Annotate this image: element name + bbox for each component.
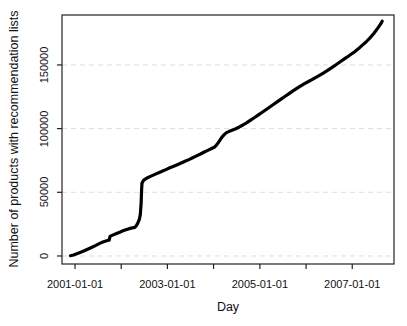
x-tick-label: 2005-01-01 bbox=[232, 278, 288, 290]
data-line-products-with-recommendation-lists bbox=[70, 21, 382, 256]
y-tick-label: 0 bbox=[38, 253, 50, 259]
y-tick-label: 150000 bbox=[38, 47, 50, 84]
x-tick-label: 2003-01-01 bbox=[139, 278, 195, 290]
plot-box bbox=[62, 15, 394, 264]
y-tick-label: 50000 bbox=[38, 177, 50, 208]
x-tick-label: 2001-01-01 bbox=[47, 278, 103, 290]
x-axis-title: Day bbox=[217, 300, 239, 314]
y-tick-label: 100000 bbox=[38, 110, 50, 147]
line-chart-figure: Number of products with recommendation l… bbox=[0, 0, 407, 326]
y-axis-title: Number of products with recommendation l… bbox=[7, 10, 21, 267]
x-tick-label: 2007-01-01 bbox=[324, 278, 380, 290]
